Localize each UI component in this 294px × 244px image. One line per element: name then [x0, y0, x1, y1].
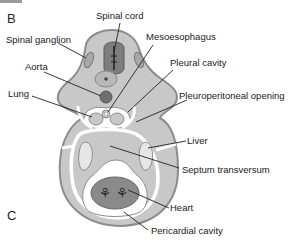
lung-left: [89, 113, 103, 125]
label-pleuroperitoneal-opening: Pleuroperitoneal opening: [179, 91, 285, 101]
label-pericardial-cavity: Pericardial cavity: [151, 226, 223, 236]
aorta-shape: [100, 91, 112, 103]
label-heart: Heart: [170, 203, 193, 213]
label-mesoesophagus: Mesoesophagus: [146, 32, 216, 42]
leader-spinal-ganglion: [58, 43, 86, 58]
label-spinal-ganglion: Spinal ganglion: [6, 35, 71, 45]
label-liver: Liver: [187, 136, 208, 146]
label-lung: Lung: [8, 89, 29, 99]
notochord: [104, 77, 108, 81]
panel-label-b: B: [7, 12, 16, 25]
heart-tube-right: ⚘: [116, 185, 129, 201]
label-aorta: Aorta: [25, 62, 48, 72]
heart-tube-left: ⚘: [99, 185, 112, 201]
label-spinal-cord: Spinal cord: [96, 11, 144, 21]
lung-right: [110, 113, 124, 125]
label-septum-transversum: Septum transversum: [182, 165, 270, 175]
label-pleural-cavity: Pleural cavity: [170, 58, 227, 68]
panel-label-c: C: [7, 209, 16, 222]
